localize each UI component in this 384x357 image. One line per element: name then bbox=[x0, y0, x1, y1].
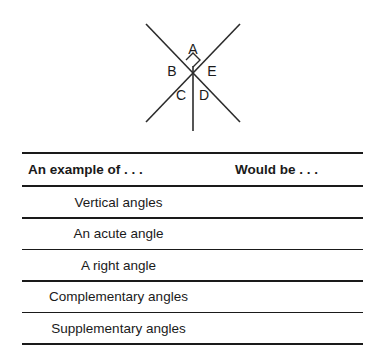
figure-label-D: D bbox=[199, 87, 209, 103]
table-row: An acute angle bbox=[22, 219, 363, 249]
table-header-row: An example of . . . Would be . . . bbox=[22, 154, 363, 185]
angle-examples-table: An example of . . . Would be . . . Verti… bbox=[22, 152, 363, 345]
row-example-label: An acute angle bbox=[22, 226, 215, 241]
table-row: Supplementary angles bbox=[22, 313, 363, 343]
table-row: Complementary angles bbox=[22, 282, 363, 312]
angle-diagram: A B E C D bbox=[0, 0, 384, 145]
row-example-label: A right angle bbox=[22, 258, 215, 273]
figure-label-A: A bbox=[188, 41, 198, 57]
row-example-label: Vertical angles bbox=[22, 195, 215, 210]
figure-label-C: C bbox=[176, 87, 186, 103]
figure-label-E: E bbox=[207, 63, 216, 79]
figure-label-B: B bbox=[167, 63, 176, 79]
table-bottom-rule bbox=[22, 343, 363, 345]
row-example-label: Supplementary angles bbox=[22, 321, 215, 336]
row-example-label: Complementary angles bbox=[22, 289, 215, 304]
table-row: A right angle bbox=[22, 250, 363, 280]
header-cell-example: An example of . . . bbox=[22, 162, 221, 177]
table-row: Vertical angles bbox=[22, 187, 363, 217]
header-cell-answer: Would be . . . bbox=[221, 162, 363, 177]
